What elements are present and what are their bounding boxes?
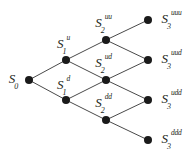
tree-edge xyxy=(106,100,148,120)
tree-edge xyxy=(66,40,106,60)
tree-node-S1d xyxy=(62,96,70,104)
tree-edge xyxy=(66,100,106,120)
nodes-group xyxy=(25,16,152,144)
tree-edge xyxy=(66,60,106,80)
tree-edge xyxy=(106,60,148,80)
tree-edge xyxy=(66,80,106,100)
tree-edge xyxy=(29,80,66,100)
tree-edge xyxy=(106,80,148,100)
edges-group xyxy=(29,20,148,140)
tree-canvas xyxy=(0,0,192,158)
tree-node-S2dd xyxy=(102,116,110,124)
tree-node-S3uud xyxy=(144,56,152,64)
tree-edge xyxy=(106,20,148,40)
tree-node-S3uuu xyxy=(144,16,152,24)
tree-node-S0 xyxy=(25,76,33,84)
tree-node-S3ddd xyxy=(144,136,152,144)
tree-node-S2ud xyxy=(102,76,110,84)
tree-edge xyxy=(106,40,148,60)
tree-edge xyxy=(29,60,66,80)
tree-edge xyxy=(106,120,148,140)
tree-node-S1u xyxy=(62,56,70,64)
binomial-tree-diagram: S0S1uS1dS2uuS2udS2ddS3uuuS3uudS3uddS3ddd xyxy=(0,0,192,158)
tree-node-S2uu xyxy=(102,36,110,44)
tree-node-S3udd xyxy=(144,96,152,104)
